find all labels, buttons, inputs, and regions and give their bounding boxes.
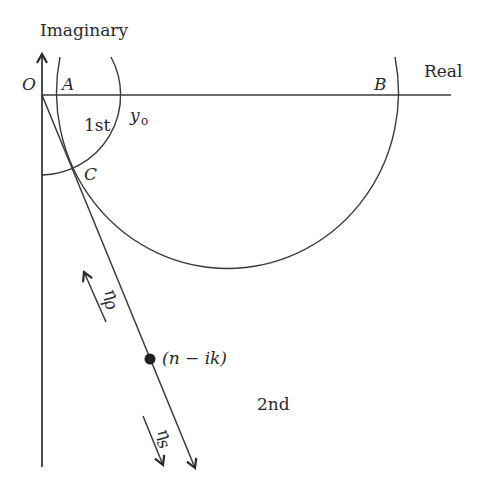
material-label: (n − ik) <box>162 348 227 368</box>
real-axis-label: Real <box>424 61 462 81</box>
admittance-diagram: Imaginary Real O A B C 1st 2nd y o (n − … <box>0 0 485 496</box>
point-c-label: C <box>84 164 97 184</box>
point-b-label: B <box>373 74 387 94</box>
y0-label: y o <box>129 105 148 128</box>
locus-line <box>42 95 195 468</box>
svg-text:o: o <box>141 114 148 128</box>
eta-s-label: η s <box>149 425 179 452</box>
second-circle-arc <box>57 57 399 268</box>
origin-label: O <box>22 74 36 94</box>
material-point <box>145 354 156 365</box>
point-a-label: A <box>60 74 74 94</box>
svg-text:y: y <box>129 105 140 125</box>
first-region-label: 1st <box>84 115 111 135</box>
imaginary-axis-label: Imaginary <box>40 20 129 40</box>
second-region-label: 2nd <box>257 394 290 414</box>
